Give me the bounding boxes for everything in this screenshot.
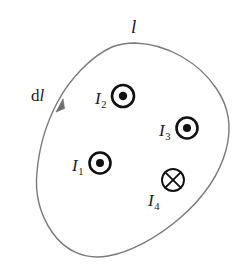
closed-amperian-loop-path [37,43,230,257]
current-label-I4: I4 [148,192,159,209]
current-symbol-I3-out-of-page [177,118,198,139]
current-symbol-I4-into-page [162,169,184,191]
current-label-I3: I3 [159,122,170,139]
dl-l-glyph: l [40,86,45,105]
current-label-I4-subscript: 4 [154,201,159,212]
current-symbol-I1-out-of-page [90,153,111,174]
loop-label-l: l [131,17,136,36]
dl-direction-arrow-icon [56,99,65,112]
current-label-I3-base: I [159,121,165,140]
line-element-label-dl: dl [31,87,44,104]
amperian-loop-figure: l dl I2 I3 I1 I4 [0,0,249,272]
current-label-I1-base: I [72,156,78,175]
current-symbol-I2-out-of-page [112,85,134,107]
current-label-I2-base: I [95,89,101,108]
current-label-I2: I2 [95,90,106,107]
current-label-I2-subscript: 2 [101,99,106,110]
current-label-I3-subscript: 3 [165,131,170,142]
dl-d-glyph: d [31,86,40,105]
current-label-I1-subscript: 1 [78,166,83,177]
current-label-I4-base: I [148,191,154,210]
current-label-I1: I1 [72,157,83,174]
figure-canvas [0,0,249,272]
